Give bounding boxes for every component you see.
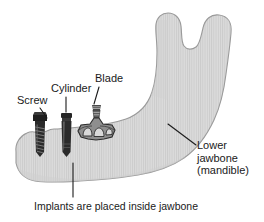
label-blade: Blade [95, 72, 123, 85]
label-screw: Screw [17, 94, 48, 107]
blade-openings [83, 128, 112, 137]
figure-caption: Implants are placed inside jawbone [34, 200, 198, 213]
label-lower-jawbone-line2: jawbone [197, 152, 263, 165]
label-lower-jawbone-line1: Lower [197, 139, 263, 152]
label-lower-jawbone-line3: (mandible) [197, 164, 263, 177]
label-cylinder: Cylinder [51, 82, 91, 95]
anatomy-figure: Screw Cylinder Blade Lower jawbone (mand… [0, 0, 264, 222]
jaw-implant-diagram-svg [0, 0, 264, 222]
label-lower-jawbone: Lower jawbone (mandible) [197, 139, 263, 177]
blade-implant [78, 105, 115, 140]
cylinder-implant [61, 113, 72, 157]
leader-blade [94, 87, 99, 104]
